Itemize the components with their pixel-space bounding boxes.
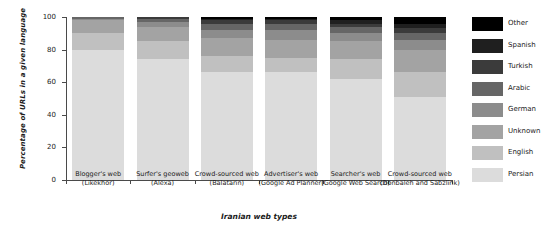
bar-segment-english[interactable] [201,56,253,72]
y-tick-label: 60 [47,78,56,86]
legend-label: Spanish [508,41,536,49]
stacked-bar[interactable] [330,17,382,180]
x-category-label-line: Crowd-sourced web [368,170,472,179]
y-tick: 80 [62,50,66,51]
y-axis-line [66,17,67,180]
stacked-bar[interactable] [201,17,253,180]
legend: OtherSpanishTurkishArabicGermanUnknownEn… [472,15,558,187]
bar-segment-english[interactable] [330,59,382,79]
y-tick: 20 [62,147,66,148]
legend-item[interactable]: Turkish [472,58,558,80]
bar-segment-english[interactable] [137,41,189,59]
bar-segment-persian[interactable] [72,50,124,180]
legend-swatch [472,146,503,160]
legend-label: Unknown [508,127,541,135]
y-tick: 100 [62,17,66,18]
legend-item[interactable]: Arabic [472,80,558,102]
bar-segment-persian[interactable] [265,72,317,180]
chart-root: Percentage of URLs in a given language 0… [0,0,558,231]
plot-area: 020406080100 [66,17,452,180]
bar-segment-persian[interactable] [201,72,253,180]
bar-segment-english[interactable] [72,33,124,49]
y-tick: 40 [62,115,66,116]
bar-segment-english[interactable] [265,58,317,73]
legend-swatch [472,17,503,31]
legend-item[interactable]: Spanish [472,37,558,59]
bar-segment-unknown[interactable] [330,41,382,59]
bar-segment-german[interactable] [265,30,317,40]
bar-segment-german[interactable] [330,33,382,41]
bar-segment-english[interactable] [394,72,446,96]
legend-label: German [508,105,536,113]
legend-swatch [472,60,503,74]
legend-swatch [472,39,503,53]
y-tick: 60 [62,82,66,83]
y-axis-title: Percentage of URLs in a given language [19,19,27,169]
x-category-label: Crowd-sourced web(Donbaleh and Sabzlink) [368,170,472,188]
stacked-bar[interactable] [265,17,317,180]
x-category-label-line: (Donbaleh and Sabzlink) [368,179,472,188]
legend-swatch [472,168,503,182]
y-tick-label: 100 [43,13,56,21]
bar-segment-german[interactable] [394,40,446,50]
legend-label: English [508,148,533,156]
legend-label: Persian [508,170,533,178]
legend-item[interactable]: English [472,144,558,166]
bar-segment-persian[interactable] [394,97,446,180]
legend-label: Arabic [508,84,530,92]
legend-label: Other [508,19,528,27]
stacked-bar[interactable] [137,17,189,180]
y-tick-label: 20 [47,143,56,151]
bar-segment-persian[interactable] [330,79,382,180]
bar-segment-unknown[interactable] [265,40,317,58]
bar-segment-unknown[interactable] [201,38,253,56]
legend-item[interactable]: Other [472,15,558,37]
y-tick-label: 40 [47,111,56,119]
legend-swatch [472,125,503,139]
x-axis-title: Iranian web types [66,212,452,221]
legend-item[interactable]: German [472,101,558,123]
bar-segment-unknown[interactable] [72,20,124,33]
bar-segment-persian[interactable] [137,59,189,180]
legend-swatch [472,82,503,96]
legend-label: Turkish [508,62,533,70]
bar-segment-german[interactable] [201,30,253,38]
y-tick-label: 80 [47,46,56,54]
bar-segment-unknown[interactable] [394,50,446,73]
legend-swatch [472,103,503,117]
stacked-bar[interactable] [394,17,446,180]
legend-item[interactable]: Persian [472,166,558,188]
bar-segment-unknown[interactable] [137,27,189,42]
stacked-bar[interactable] [72,17,124,180]
legend-item[interactable]: Unknown [472,123,558,145]
